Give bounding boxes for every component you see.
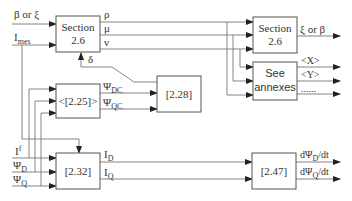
block-label: annexes — [254, 81, 296, 93]
block-label: [2.32] — [65, 165, 92, 177]
signal-delta: δ — [88, 53, 93, 65]
wire-if-to-225 — [29, 89, 56, 158]
block-label: Section — [259, 22, 292, 34]
wire-psid-to-225 — [35, 101, 56, 172]
output-xi-or-beta: ξ or β — [300, 23, 326, 36]
output-dpsi-d-dt: dΨD/dt — [300, 149, 329, 163]
input-i-mes: Imes — [14, 31, 31, 46]
block-diagram: Section 2.6 Section 2.6 See annexes <[2.… — [0, 0, 352, 201]
output-dpsi-q-dt: dΨQ/dt — [300, 166, 329, 180]
block-label: [2.28] — [166, 88, 193, 100]
block-label: 2.6 — [71, 34, 85, 46]
block-see-annexes: See annexes — [253, 62, 297, 100]
block-eq-2-47: [2.47] — [252, 153, 296, 189]
input-beta-or-xi: β or ξ — [14, 8, 39, 21]
output-y: <Y> — [301, 69, 320, 80]
block-eq-2-28: [2.28] — [157, 76, 201, 112]
wire-nu-to-annex — [240, 49, 253, 67]
signal-nu: ν — [104, 36, 109, 48]
wire-psiq-to-225 — [41, 113, 56, 186]
block-eq-2-32: [2.32] — [56, 153, 100, 189]
block-section-left: Section 2.6 — [56, 16, 100, 52]
block-label: 2.6 — [268, 35, 282, 47]
signal-mu: μ — [104, 22, 110, 34]
block-eq-2-25: <[2.25]> — [56, 84, 100, 118]
input-i-f: If — [15, 144, 22, 157]
block-label: See — [265, 67, 285, 79]
output-x: <X> — [301, 55, 320, 66]
signal-i-d: ID — [104, 148, 114, 163]
signal-rho: ρ — [104, 8, 110, 20]
block-label: <[2.25]> — [59, 95, 98, 107]
output-more: ...... — [301, 83, 316, 94]
wire-mu-to-annex — [233, 35, 253, 81]
block-label: Section — [62, 21, 95, 33]
block-label: [2.47] — [261, 165, 288, 177]
block-section-right: Section 2.6 — [253, 17, 297, 53]
